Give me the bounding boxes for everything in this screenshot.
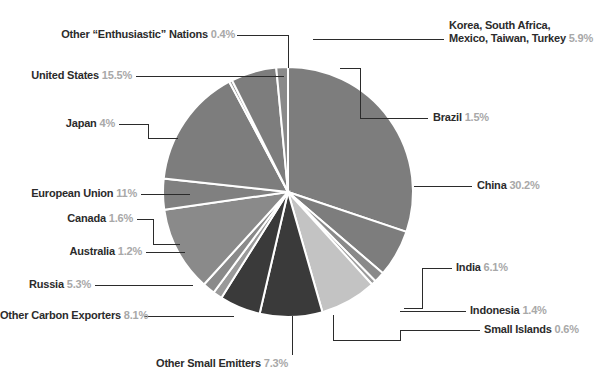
label-name-japan: Japan: [66, 117, 97, 129]
label-india: India 6.1%: [456, 261, 508, 274]
label-name-other-small-emitters: Other Small Emitters: [156, 357, 261, 369]
label-other-carbon-exporters: Other Carbon Exporters 8.1%: [0, 309, 140, 322]
label-european-union: European Union 11%: [0, 187, 137, 200]
label-name-australia: Australia: [70, 245, 115, 257]
label-pct-korea-group: 5.9%: [569, 32, 593, 44]
label-pct-other-small-emitters: 7.3%: [264, 357, 288, 369]
label-indonesia: Indonesia 1.4%: [470, 304, 547, 317]
label-pct-other-carbon-exporters: 8.1%: [124, 309, 148, 321]
label-name-korea-group-line1: Korea, South Africa,: [449, 19, 593, 32]
label-united-states: United States 15.5%: [0, 69, 132, 82]
label-pct-india: 6.1%: [484, 261, 508, 273]
pie-slices-group: [163, 67, 413, 317]
label-name-canada: Canada: [67, 212, 106, 224]
label-name-india: India: [456, 261, 481, 273]
label-russia: Russia 5.3%: [0, 278, 91, 291]
label-pct-japan: 4%: [100, 117, 116, 129]
label-pct-brazil: 1.5%: [465, 111, 489, 123]
label-pct-united-states: 15.5%: [102, 69, 132, 81]
label-japan: Japan 4%: [0, 117, 115, 130]
leader-line-india: [404, 268, 452, 308]
leader-line-other-enthusiastic-nations: [237, 35, 288, 68]
label-other-small-emitters: Other Small Emitters 7.3%: [150, 357, 288, 370]
label-name-korea-group-line2-wrap: Mexico, Taiwan, Turkey 5.9%: [449, 32, 593, 45]
label-pct-china: 30.2%: [509, 179, 539, 191]
label-name-indonesia: Indonesia: [470, 304, 520, 316]
pie-chart-figure: Other “Enthusiastic” Nations 0.4% United…: [0, 0, 597, 381]
label-name-united-states: United States: [31, 69, 99, 81]
label-name-small-islands: Small Islands: [484, 323, 552, 335]
label-pct-other-enthusiastic-nations: 0.4%: [211, 28, 235, 40]
label-pct-european-union: 11%: [116, 187, 137, 199]
label-name-other-enthusiastic-nations: Other “Enthusiastic” Nations: [61, 28, 208, 40]
label-small-islands: Small Islands 0.6%: [484, 323, 579, 336]
label-pct-australia: 1.2%: [118, 245, 142, 257]
label-korea-group: Korea, South Africa, Mexico, Taiwan, Tur…: [449, 19, 593, 45]
label-brazil: Brazil 1.5%: [433, 111, 489, 124]
label-pct-russia: 5.3%: [67, 278, 91, 290]
leader-line-japan: [119, 124, 178, 138]
label-name-brazil: Brazil: [433, 111, 462, 123]
label-pct-canada: 1.6%: [109, 212, 133, 224]
label-name-korea-group-line2: Mexico, Taiwan, Turkey: [449, 32, 566, 44]
label-name-european-union: European Union: [31, 187, 113, 199]
label-pct-small-islands: 0.6%: [555, 323, 579, 335]
label-canada: Canada 1.6%: [0, 212, 133, 225]
label-australia: Australia 1.2%: [0, 245, 142, 258]
label-name-china: China: [477, 179, 507, 191]
label-other-enthusiastic-nations: Other “Enthusiastic” Nations 0.4%: [30, 28, 235, 41]
label-name-russia: Russia: [29, 278, 64, 290]
label-name-other-carbon-exporters: Other Carbon Exporters: [0, 309, 121, 321]
leader-line-small-islands-2: [333, 330, 480, 340]
label-pct-indonesia: 1.4%: [522, 304, 546, 316]
label-china: China 30.2%: [477, 179, 540, 192]
